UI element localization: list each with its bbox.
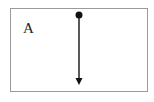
box-label: A — [23, 20, 34, 37]
diagram-canvas — [0, 0, 154, 102]
dot-icon — [76, 12, 83, 19]
force-diagram: A — [0, 0, 154, 102]
